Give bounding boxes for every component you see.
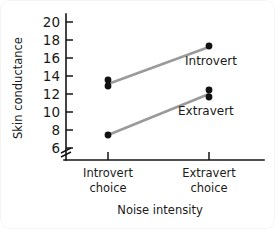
x-category-sublabel-introvert: choice [89,181,126,195]
x-category-labels: Introvert choice Extravert choice [83,166,236,195]
data-point [105,83,112,90]
y-tick-labels: 20 18 16 14 12 10 8 6 [43,14,60,156]
data-point [206,43,213,50]
y-tick-label: 6 [51,140,60,156]
y-tick-label: 20 [43,14,60,30]
y-tick-marks [66,22,73,148]
data-point [206,94,213,101]
series-extravert: Extravert [105,87,234,139]
x-axis-title: Noise intensity [117,203,203,217]
y-axis-title: Skin conductance [11,37,25,139]
x-category-label-extravert: Extravert [182,166,236,180]
series-label-extravert: Extravert [178,104,234,118]
x-category-label-introvert: Introvert [83,166,133,180]
y-tick-label: 14 [43,68,60,84]
chart-figure: 20 18 16 14 12 10 8 6 Skin conductance I… [0,0,275,229]
y-tick-label: 8 [51,122,60,138]
y-tick-label: 10 [43,104,60,120]
x-category-sublabel-extravert: choice [190,181,227,195]
data-point [206,87,213,94]
y-tick-label: 18 [43,32,60,48]
data-point [105,77,112,84]
x-tick-marks [108,152,209,160]
data-point [105,132,112,139]
y-tick-label: 16 [43,50,60,66]
series-label-introvert: Introvert [185,54,237,68]
y-tick-label: 12 [43,86,60,102]
axis-group [64,14,264,160]
series-introvert: Introvert [105,43,238,90]
interaction-plot: 20 18 16 14 12 10 8 6 Skin conductance I… [0,0,275,229]
